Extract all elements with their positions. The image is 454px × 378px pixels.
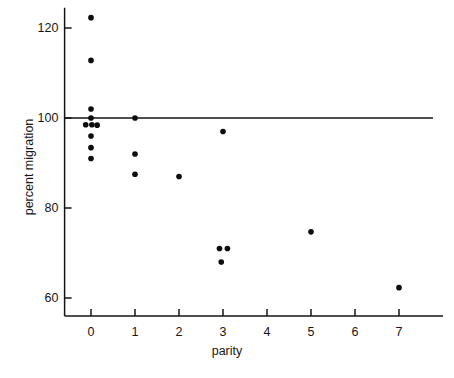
- y-axis-tick-label: 60: [19, 291, 59, 305]
- x-axis-tick-label: 0: [87, 325, 94, 339]
- data-point: [88, 156, 94, 162]
- data-point: [89, 122, 95, 128]
- x-axis-tick-label: 6: [351, 325, 358, 339]
- data-point: [88, 58, 94, 64]
- chart-canvas: [0, 0, 454, 378]
- data-point: [94, 122, 100, 128]
- data-point: [132, 151, 138, 157]
- data-point: [132, 171, 138, 177]
- x-axis-tick-label: 2: [175, 325, 182, 339]
- data-point-group: [83, 15, 402, 291]
- data-point: [88, 15, 94, 21]
- data-point: [88, 106, 94, 112]
- x-axis-tick-label: 4: [263, 325, 270, 339]
- data-point: [83, 122, 89, 128]
- x-axis-tick-label: 3: [219, 325, 226, 339]
- data-point: [88, 115, 94, 121]
- x-axis-title: parity: [0, 344, 454, 358]
- data-point: [88, 145, 94, 151]
- data-point: [308, 229, 314, 235]
- data-point: [176, 174, 182, 180]
- data-point: [220, 129, 226, 135]
- plot-area: 6080100120 01234567 percent migration pa…: [0, 0, 454, 378]
- data-point: [218, 259, 224, 265]
- x-axis-tick-label: 7: [395, 325, 402, 339]
- x-axis-tick-label: 5: [307, 325, 314, 339]
- data-point: [88, 133, 94, 139]
- y-axis-tick-label: 120: [19, 21, 59, 35]
- data-point: [396, 285, 402, 291]
- data-point: [132, 115, 138, 121]
- x-axis-tick-label: 1: [131, 325, 138, 339]
- data-point: [225, 246, 231, 252]
- scatter-plot-figure: 6080100120 01234567 percent migration pa…: [0, 0, 454, 378]
- y-axis-title: percent migration: [22, 92, 36, 242]
- data-point: [217, 246, 223, 252]
